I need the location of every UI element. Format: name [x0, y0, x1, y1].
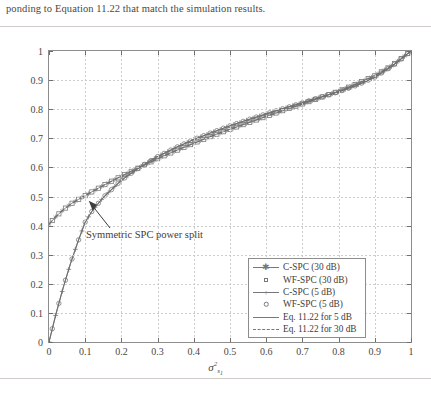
- axis-tick-x: [411, 338, 412, 342]
- legend-key-line-asterisk-icon: ✱: [251, 261, 281, 273]
- axis-tick-x: [121, 51, 122, 55]
- y-tick-label: 0.3: [17, 249, 43, 260]
- axis-tick-y: [49, 51, 53, 52]
- legend-key-square-icon: [251, 274, 281, 286]
- grid-line-horizontal: [49, 138, 411, 139]
- axis-tick-x: [158, 338, 159, 342]
- axis-tick-y: [49, 167, 53, 168]
- axis-tick-y: [407, 167, 411, 168]
- y-tick-label: 0.2: [17, 278, 43, 289]
- legend-key-solid-line-icon: [251, 311, 281, 323]
- figure-container: 00.10.20.30.40.50.60.70.80.91 00.10.20.3…: [0, 30, 431, 376]
- axis-tick-y: [49, 109, 53, 110]
- axis-tick-x: [194, 51, 195, 55]
- x-tick-label: 0.9: [369, 346, 382, 357]
- x-tick-label: 0.8: [332, 346, 345, 357]
- axis-tick-x: [375, 51, 376, 55]
- axis-tick-y: [407, 342, 411, 343]
- axis-tick-x: [158, 51, 159, 55]
- grid-line-horizontal: [49, 80, 411, 81]
- legend-label: WF-SPC (5 dB): [281, 299, 343, 309]
- grid-line-horizontal: [49, 226, 411, 227]
- axis-tick-y: [407, 80, 411, 81]
- axis-tick-y: [49, 342, 53, 343]
- legend-label: Eq. 11.22 for 30 dB: [281, 324, 357, 334]
- y-tick-label: 0.5: [17, 191, 43, 202]
- x-tick-label: 0.5: [224, 346, 237, 357]
- grid-line-horizontal: [49, 197, 411, 198]
- axis-tick-y: [407, 51, 411, 52]
- axis-tick-x: [121, 338, 122, 342]
- axis-tick-y: [49, 226, 53, 227]
- legend-item[interactable]: ✱C-SPC (30 dB): [251, 261, 362, 273]
- y-tick-label: 0.4: [17, 220, 43, 231]
- axis-tick-y: [407, 284, 411, 285]
- legend-key-dashed-line-icon: [251, 323, 281, 335]
- bottom-rule: [0, 378, 431, 379]
- legend-item[interactable]: +C-SPC (5 dB): [251, 286, 362, 298]
- axis-tick-y: [49, 80, 53, 81]
- axis-tick-y: [407, 313, 411, 314]
- y-tick-label: 0: [17, 337, 43, 348]
- x-axis-title: σ2s1: [0, 360, 431, 376]
- axis-tick-x: [339, 338, 340, 342]
- y-tick-label: 0.6: [17, 162, 43, 173]
- axis-tick-x: [85, 338, 86, 342]
- x-tick-label: 0.1: [79, 346, 92, 357]
- y-tick-label: 0.9: [17, 75, 43, 86]
- x-tick-label: 0.2: [115, 346, 128, 357]
- legend-label: Eq. 11.22 for 5 dB: [281, 312, 352, 322]
- page-caption: ponding to Equation 11.22 that match the…: [6, 2, 426, 15]
- y-tick-label: 1: [17, 46, 43, 57]
- grid-line-horizontal: [49, 109, 411, 110]
- axis-tick-x: [375, 338, 376, 342]
- axis-tick-x: [230, 51, 231, 55]
- axis-tick-y: [49, 255, 53, 256]
- y-tick-label: 0.7: [17, 133, 43, 144]
- y-tick-label: 0.8: [17, 104, 43, 115]
- axis-tick-x: [302, 338, 303, 342]
- axis-tick-y: [49, 313, 53, 314]
- legend-label: C-SPC (5 dB): [281, 287, 335, 297]
- legend-label: WF-SPC (30 dB): [281, 275, 348, 285]
- axis-tick-y: [49, 138, 53, 139]
- grid-line-horizontal: [49, 255, 411, 256]
- x-tick-label: 0: [47, 346, 52, 357]
- legend-item[interactable]: Eq. 11.22 for 30 dB: [251, 323, 362, 335]
- axis-tick-y: [407, 138, 411, 139]
- axis-tick-y: [407, 197, 411, 198]
- axis-tick-x: [411, 51, 412, 55]
- axis-tick-y: [407, 255, 411, 256]
- axis-tick-x: [266, 338, 267, 342]
- axis-tick-x: [302, 51, 303, 55]
- chart-legend: ✱C-SPC (30 dB)WF-SPC (30 dB)+C-SPC (5 dB…: [248, 258, 366, 338]
- axis-tick-y: [49, 284, 53, 285]
- y-tick-label: 0.1: [17, 307, 43, 318]
- axis-tick-x: [85, 51, 86, 55]
- axis-tick-x: [230, 338, 231, 342]
- axis-tick-x: [339, 51, 340, 55]
- x-tick-label: 1: [409, 346, 414, 357]
- x-tick-label: 0.3: [151, 346, 164, 357]
- legend-item[interactable]: Eq. 11.22 for 5 dB: [251, 311, 362, 323]
- axis-tick-y: [407, 226, 411, 227]
- x-tick-label: 0.4: [188, 346, 201, 357]
- legend-key-line-plus-icon: +: [251, 286, 281, 298]
- axis-tick-x: [194, 338, 195, 342]
- axis-tick-y: [407, 109, 411, 110]
- x-tick-label: 0.7: [296, 346, 309, 357]
- axis-tick-y: [49, 197, 53, 198]
- legend-label: C-SPC (30 dB): [281, 262, 340, 272]
- grid-line-horizontal: [49, 167, 411, 168]
- x-tick-label: 0.6: [260, 346, 273, 357]
- annotation-symmetric-spc: Symmetric SPC power split: [86, 229, 203, 240]
- legend-key-circle-icon: [251, 298, 281, 310]
- legend-item[interactable]: WF-SPC (5 dB): [251, 298, 362, 310]
- axis-tick-x: [266, 51, 267, 55]
- legend-item[interactable]: WF-SPC (30 dB): [251, 273, 362, 285]
- top-rule: [0, 26, 431, 27]
